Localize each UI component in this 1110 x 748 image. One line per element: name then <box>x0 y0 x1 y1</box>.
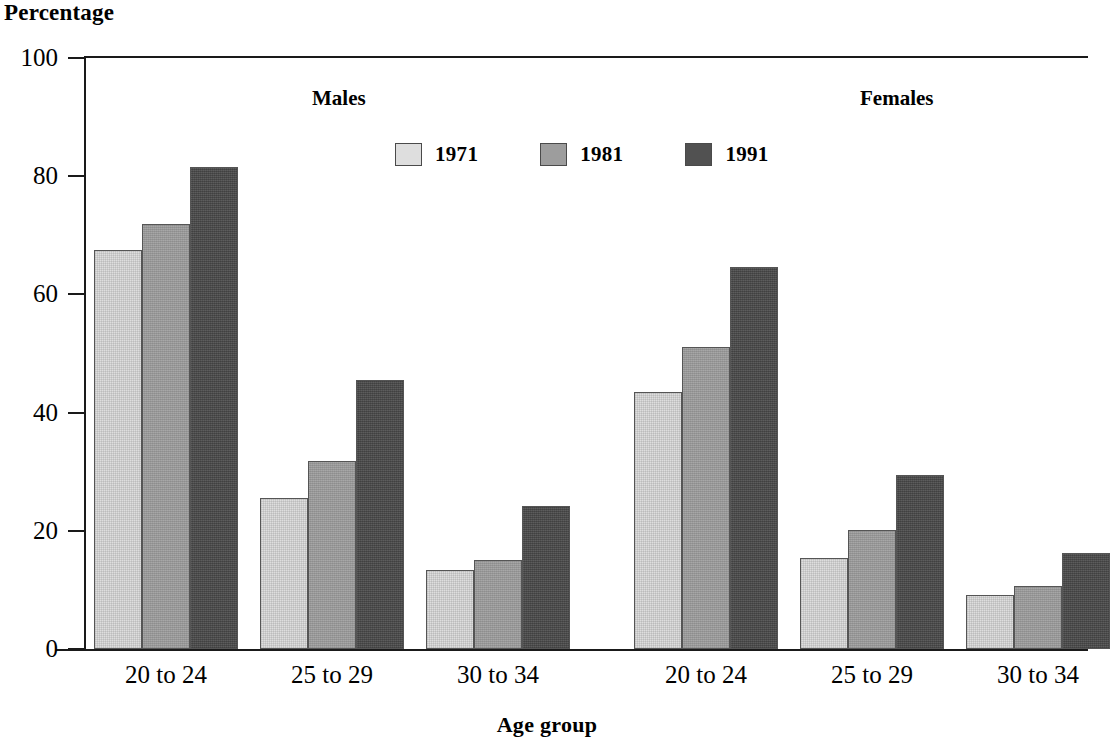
x-tick-label: 25 to 29 <box>291 662 373 687</box>
bar-males-30-to-34-1981 <box>474 560 522 649</box>
y-tick-mark <box>68 57 85 59</box>
y-tick-label: 40 <box>33 400 58 425</box>
bar-males-30-to-34-1991 <box>522 506 570 649</box>
y-tick-label: 20 <box>33 518 58 543</box>
bar-males-25-to-29-1971 <box>260 498 308 649</box>
bar-males-20-to-24-1981 <box>142 224 190 649</box>
y-axis-title: Percentage <box>4 0 114 26</box>
bar-females-25-to-29-1981 <box>848 530 896 649</box>
bar-males-20-to-24-1991 <box>190 167 238 649</box>
x-axis-title: Age group <box>497 712 598 738</box>
x-tick-label: 25 to 29 <box>831 662 913 687</box>
y-tick-mark <box>68 293 85 295</box>
y-tick-mark <box>68 648 85 650</box>
bar-females-20-to-24-1991 <box>730 267 778 649</box>
bar-males-25-to-29-1981 <box>308 461 356 649</box>
bar-females-25-to-29-1991 <box>896 475 944 649</box>
bar-females-25-to-29-1971 <box>800 558 848 649</box>
bar-females-30-to-34-1981 <box>1014 586 1062 649</box>
bar-males-20-to-24-1971 <box>94 250 142 649</box>
x-tick-label: 20 to 24 <box>665 662 747 687</box>
bar-females-20-to-24-1971 <box>634 392 682 649</box>
bar-females-30-to-34-1971 <box>966 595 1014 649</box>
y-tick-mark <box>68 175 85 177</box>
x-tick-label: 30 to 34 <box>457 662 539 687</box>
x-axis-line <box>56 649 1088 651</box>
x-tick-label: 20 to 24 <box>125 662 207 687</box>
bar-females-20-to-24-1981 <box>682 347 730 649</box>
y-tick-label: 0 <box>46 636 59 661</box>
y-tick-mark <box>68 530 85 532</box>
y-tick-label: 100 <box>21 45 59 70</box>
y-tick-mark <box>68 412 85 414</box>
plot-area <box>84 58 1088 649</box>
bar-females-30-to-34-1991 <box>1062 553 1110 649</box>
bar-males-30-to-34-1971 <box>426 570 474 649</box>
x-tick-label: 30 to 34 <box>997 662 1079 687</box>
y-tick-label: 80 <box>33 163 58 188</box>
bar-males-25-to-29-1991 <box>356 380 404 649</box>
y-tick-label: 60 <box>33 281 58 306</box>
